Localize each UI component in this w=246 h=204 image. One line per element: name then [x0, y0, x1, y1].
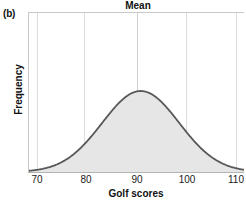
x-axis-label: Golf scores [28, 188, 244, 199]
xtick-label-80: 80 [71, 174, 101, 185]
xtick-label-90: 90 [122, 174, 152, 185]
panel-label: (b) [3, 8, 15, 19]
xtick-label-70: 70 [22, 174, 52, 185]
distribution-fill [28, 91, 244, 172]
distribution-curve-svg [28, 12, 244, 173]
y-axis-label: Frequency [13, 45, 24, 135]
xtick-label-110: 110 [221, 174, 246, 185]
chart-title: Mean [108, 0, 168, 11]
figure-panel-b: (b) Mean Frequency 70 80 90 100 110 Golf… [0, 0, 246, 204]
xtick-label-100: 100 [172, 174, 202, 185]
plot-area [28, 12, 244, 173]
